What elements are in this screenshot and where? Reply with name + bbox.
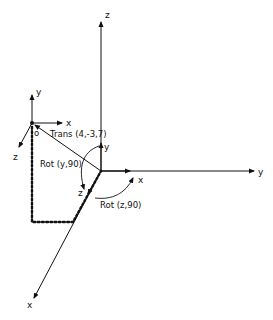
rotated-y-label: y	[104, 142, 110, 152]
local-frame: y x z o	[13, 87, 72, 162]
transform-diagram: z y x y x z y x z o Trans (4,-3,7) Rot (…	[0, 0, 273, 320]
local-x-label: x	[66, 118, 72, 128]
rotated-frame: y x z	[78, 142, 144, 198]
local-z-axis	[19, 123, 32, 147]
world-y-label: y	[258, 167, 264, 177]
rot-z-label: Rot (z,90)	[100, 200, 141, 210]
local-y-label: y	[36, 87, 42, 97]
local-z-label: z	[13, 152, 18, 162]
translation-path-dotted	[32, 127, 101, 222]
local-origin-dot	[30, 121, 34, 125]
rotated-z-label: z	[78, 188, 83, 198]
local-origin-label: o	[34, 128, 39, 138]
world-x-label: x	[27, 300, 33, 310]
rot-y-label: Rot (y,90)	[40, 159, 82, 169]
trans-label: Trans (4,-3,7)	[49, 129, 107, 139]
world-z-label: z	[105, 10, 110, 20]
rot-z-arrow	[95, 178, 133, 198]
rotated-x-label: x	[138, 175, 144, 185]
